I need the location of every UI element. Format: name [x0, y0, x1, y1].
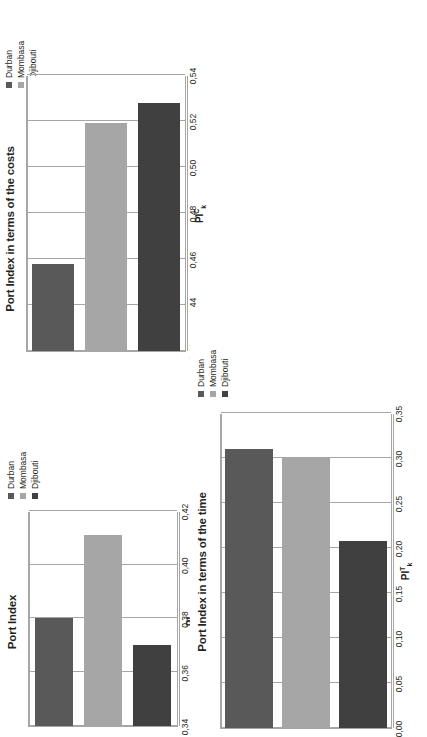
legend-label-durban: Durban	[196, 359, 206, 387]
legend-port-index-time: Durban Mombasa Djibouti	[196, 350, 230, 397]
legend-label-mombasa: Mombasa	[18, 452, 28, 489]
gridline	[27, 74, 185, 75]
bar-slot-djibouti	[132, 76, 185, 351]
axis-title-port-index-time: PITk	[399, 414, 413, 729]
bar-mombasa[interactable]	[84, 535, 122, 726]
legend-label-durban: Durban	[4, 50, 14, 78]
axis-title-main: PI	[194, 214, 205, 223]
plot-area-port-index-time	[220, 414, 392, 729]
bar-slot-djibouti	[334, 414, 391, 728]
legend-label-mombasa: Mombasa	[16, 41, 26, 78]
chart-port-index: Port Index Durban Mombasa Djibouti	[0, 437, 200, 737]
legend-item-durban[interactable]: Durban	[6, 452, 16, 499]
legend-port-index: Durban Mombasa Djibouti	[6, 452, 40, 499]
axis-title-main: PI	[400, 571, 411, 580]
legend-swatch-mombasa	[20, 493, 26, 499]
bars-port-index	[29, 512, 177, 726]
plot-area-port-index-costs	[26, 76, 186, 352]
bar-mombasa[interactable]	[282, 458, 330, 728]
legend-label-mombasa: Mombasa	[208, 350, 218, 387]
bar-djibouti[interactable]	[339, 541, 387, 728]
bar-durban[interactable]	[35, 619, 73, 727]
legend-swatch-mombasa	[18, 82, 24, 88]
legend-swatch-durban	[6, 82, 12, 88]
legend-item-durban[interactable]: Durban	[4, 41, 14, 88]
bar-djibouti[interactable]	[133, 645, 171, 726]
chart-port-index-container: Port Index Durban Mombasa Djibouti	[0, 437, 200, 737]
bar-slot-durban	[221, 414, 278, 728]
legend-label-djibouti: Djibouti	[30, 461, 40, 489]
bars-port-index-costs	[27, 76, 185, 351]
bar-durban[interactable]	[32, 264, 74, 351]
bar-slot-mombasa	[78, 512, 127, 726]
bars-port-index-time	[221, 414, 391, 728]
chart-title-port-index-time: Port Index in terms of the time	[196, 407, 208, 737]
legend-swatch-djibouti	[222, 391, 228, 397]
gridline	[29, 510, 177, 511]
legend-swatch-mombasa	[210, 391, 216, 397]
legend-swatch-durban	[198, 391, 204, 397]
chart-port-index-time: Port Index in terms of the time Durban M…	[190, 307, 420, 737]
bar-slot-djibouti	[128, 512, 177, 726]
chart-port-index-costs: Port Index in terms of the costs Durban …	[0, 12, 210, 360]
legend-item-djibouti[interactable]: Djibouti	[30, 452, 40, 499]
chart-port-index-costs-container: Port Index in terms of the costs Durban …	[0, 12, 210, 360]
legend-item-mombasa[interactable]: Mombasa	[208, 350, 218, 397]
plot-area-port-index	[28, 512, 178, 727]
chart-port-index-time-container: Port Index in terms of the time Durban M…	[190, 307, 420, 737]
legend-item-mombasa[interactable]: Mombasa	[18, 452, 28, 499]
bar-durban[interactable]	[225, 449, 273, 728]
chart-title-port-index: Port Index	[6, 507, 18, 737]
legend-item-djibouti[interactable]: Djibouti	[220, 350, 230, 397]
axis-title-sup: C	[193, 209, 200, 214]
legend-swatch-djibouti	[32, 493, 38, 499]
bar-slot-mombasa	[278, 414, 335, 728]
axis-title-sup: T	[399, 567, 406, 571]
axis-title-sub: k	[406, 563, 413, 567]
bar-slot-durban	[27, 76, 80, 351]
bar-slot-mombasa	[80, 76, 133, 351]
bar-djibouti[interactable]	[138, 103, 180, 351]
gridline	[221, 412, 391, 413]
legend-item-mombasa[interactable]: Mombasa	[16, 41, 26, 88]
chart-title-port-index-costs: Port Index in terms of the costs	[4, 98, 16, 360]
bar-slot-durban	[29, 512, 78, 726]
legend-label-durban: Durban	[6, 461, 16, 489]
axis-title-sub: k	[200, 205, 207, 209]
legend-item-durban[interactable]: Durban	[196, 350, 206, 397]
bar-mombasa[interactable]	[85, 123, 127, 351]
legend-label-djibouti: Djibouti	[220, 359, 230, 387]
legend-swatch-durban	[8, 493, 14, 499]
